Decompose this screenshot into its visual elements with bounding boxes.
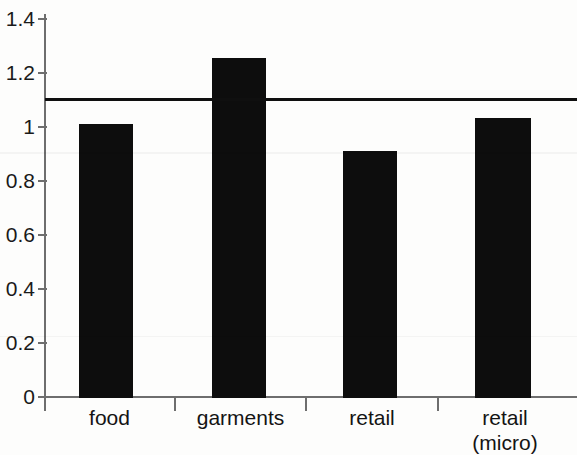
- y-tick-label-0.4: 0.4: [0, 278, 35, 299]
- x-category-label-food: food: [45, 405, 174, 430]
- y-tick-label-0: 0: [0, 386, 35, 407]
- bar-chart: 1.4 1.2 1 0.8 0.6 0.4 0.2 0 food garment…: [0, 0, 577, 455]
- x-category-label-retail-micro: retail (micro): [439, 405, 571, 455]
- bar-food: [79, 124, 133, 398]
- y-tick-label-1.2: 1.2: [0, 62, 35, 83]
- y-tick-label-0.6: 0.6: [0, 224, 35, 245]
- reference-line: [45, 98, 577, 101]
- bar-retail: [343, 151, 397, 398]
- x-category-label-retail: retail: [307, 405, 437, 430]
- bar-garments: [212, 58, 266, 398]
- y-tick-label-0.8: 0.8: [0, 170, 35, 191]
- y-tick-label-1.4: 1.4: [0, 8, 35, 29]
- plot-area: [45, 14, 577, 398]
- x-category-label-garments: garments: [176, 405, 305, 430]
- y-tick-label-1: 1: [0, 116, 35, 137]
- bar-retail-micro: [475, 118, 531, 398]
- y-tick-label-0.2: 0.2: [0, 332, 35, 353]
